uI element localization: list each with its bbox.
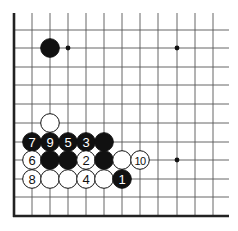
white-stone-icon bbox=[95, 170, 114, 189]
black-stone bbox=[95, 151, 114, 170]
black-stone-7: 7 bbox=[23, 133, 42, 152]
white-stone-2: 2 bbox=[77, 151, 96, 170]
white-stone-10: 10 bbox=[131, 151, 150, 170]
white-stone-4: 4 bbox=[77, 170, 96, 189]
black-stone-icon bbox=[95, 151, 114, 170]
white-stone-icon bbox=[113, 151, 132, 170]
black-stone bbox=[95, 133, 114, 152]
white-stone bbox=[41, 114, 60, 133]
star-point-icon bbox=[175, 46, 180, 51]
move-number-label: 5 bbox=[64, 135, 71, 150]
white-stone-8: 8 bbox=[23, 170, 42, 189]
black-stone-icon bbox=[95, 133, 114, 152]
black-stone bbox=[41, 151, 60, 170]
go-board-diagram: 79536210841 bbox=[0, 0, 238, 231]
black-stone-1: 1 bbox=[113, 170, 132, 189]
black-stone-5: 5 bbox=[59, 133, 78, 152]
white-stone-icon bbox=[41, 170, 60, 189]
move-number-label: 2 bbox=[82, 153, 89, 168]
white-stone bbox=[113, 151, 132, 170]
white-stone-icon bbox=[41, 114, 60, 133]
star-point-icon bbox=[175, 158, 180, 163]
move-number-label: 8 bbox=[28, 172, 35, 187]
black-stone-icon bbox=[41, 39, 60, 58]
move-number-label: 6 bbox=[28, 153, 35, 168]
black-stone-icon bbox=[59, 151, 78, 170]
move-number-label: 1 bbox=[118, 172, 125, 187]
move-number-label: 4 bbox=[82, 172, 89, 187]
move-number-label: 9 bbox=[46, 135, 53, 150]
move-number-label: 7 bbox=[28, 135, 35, 150]
move-number-label: 3 bbox=[82, 135, 89, 150]
white-stone-icon bbox=[59, 170, 78, 189]
black-stone bbox=[59, 151, 78, 170]
move-number-label: 10 bbox=[134, 155, 146, 167]
star-point-icon bbox=[66, 46, 71, 51]
black-stone-9: 9 bbox=[41, 133, 60, 152]
white-stone bbox=[41, 170, 60, 189]
black-stone-icon bbox=[41, 151, 60, 170]
white-stone bbox=[95, 170, 114, 189]
black-stone bbox=[41, 39, 60, 58]
white-stone bbox=[59, 170, 78, 189]
black-stone-3: 3 bbox=[77, 133, 96, 152]
white-stone-6: 6 bbox=[23, 151, 42, 170]
